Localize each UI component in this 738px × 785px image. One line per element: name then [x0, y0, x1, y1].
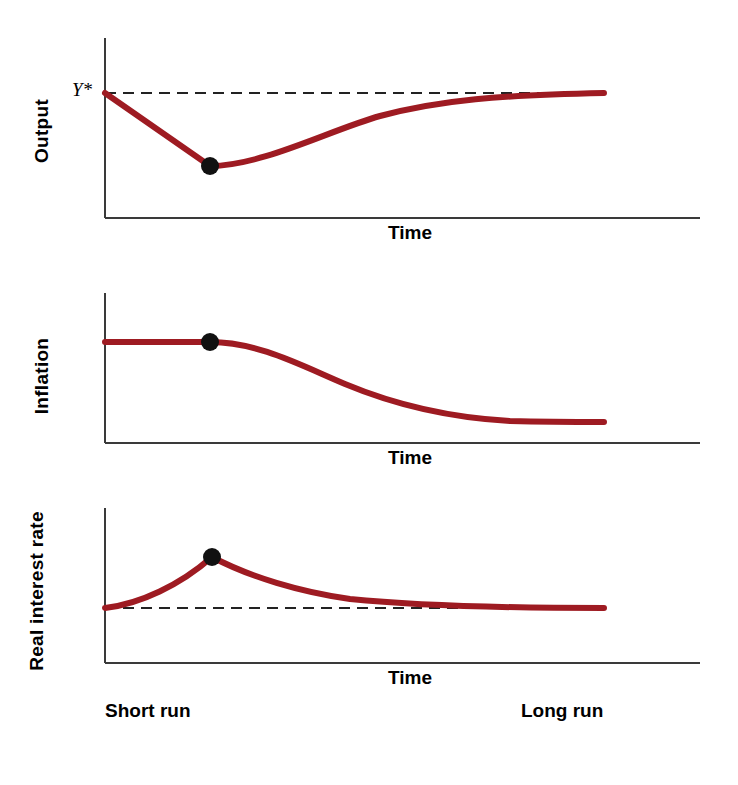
panel-real-interest-rate-ylabel: Real interest rate: [26, 496, 48, 686]
inflation-curve: [105, 342, 604, 422]
panel-real-interest-rate: Real interest rate Time: [0, 485, 738, 715]
output-trough-marker: [201, 157, 219, 175]
real-rate-peak-marker: [203, 548, 221, 566]
real-rate-curve: [105, 557, 604, 608]
panel-output: Output Y* Time: [0, 0, 738, 250]
panel-inflation-xlabel: Time: [345, 447, 475, 469]
panel-real-interest-rate-xlabel: Time: [345, 667, 475, 689]
output-curve: [105, 93, 604, 166]
panel-inflation: Inflation Time: [0, 255, 738, 480]
panel-output-plot: [0, 0, 738, 250]
short-run-label: Short run: [105, 700, 191, 722]
potential-output-label: Y*: [72, 79, 92, 101]
panel-inflation-ylabel: Inflation: [31, 321, 53, 431]
economics-adjustment-figure: Output Y* Time Inflation Time Real inter…: [0, 0, 738, 785]
panel-output-xlabel: Time: [345, 222, 475, 244]
long-run-label: Long run: [521, 700, 603, 722]
inflation-kink-marker: [201, 333, 219, 351]
panel-output-ylabel: Output: [31, 76, 53, 186]
